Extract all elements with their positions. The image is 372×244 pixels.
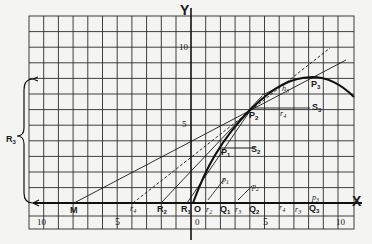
label-p3: P3 xyxy=(311,80,320,90)
label-p2-small: p2 xyxy=(252,183,259,192)
tick-y-10: 10 xyxy=(179,43,188,52)
label-p1: P1 xyxy=(221,148,230,158)
label-p3-small: p3 xyxy=(312,194,319,203)
tick-x-5: 5 xyxy=(263,217,268,227)
curve xyxy=(193,77,354,203)
label-q3: Q3 xyxy=(309,204,319,214)
tick-x-neg-10: 10 xyxy=(37,218,46,227)
x-axis-label: X xyxy=(352,194,361,208)
label-p1-small: p1 xyxy=(222,176,229,185)
label-s2: S2 xyxy=(251,145,260,155)
label-m: M xyxy=(70,206,78,215)
tick-x-neg-5: 5 xyxy=(115,217,120,227)
label-r4: r4 xyxy=(130,205,136,214)
label-h-mid: r4 xyxy=(280,110,286,119)
label-r3-small: r3 xyxy=(235,206,241,215)
brace-r3 xyxy=(17,77,38,203)
label-r1: R1 xyxy=(181,205,191,215)
tick-x-10: 10 xyxy=(336,218,345,227)
tick-y-5: 5 xyxy=(182,120,187,129)
label-s3: S3 xyxy=(312,103,321,113)
label-p2: P2 xyxy=(249,111,258,121)
label-q2: Q2 xyxy=(249,205,259,215)
label-q1: Q1 xyxy=(220,205,230,215)
label-r3b-small: r3 xyxy=(295,206,301,215)
label-r2: R2 xyxy=(157,205,167,215)
label-o: O xyxy=(194,205,201,214)
line-m-p2 xyxy=(74,60,346,203)
line-r1-p2 xyxy=(187,108,252,203)
y-axis-label: Y xyxy=(180,3,189,17)
label-r-mid: r4 xyxy=(279,204,285,213)
label-h-upper: h3 xyxy=(282,85,289,94)
tick-x-origin: 0 xyxy=(195,218,200,227)
label-r2-small: r2 xyxy=(206,206,212,215)
label-r3-brace: R3 xyxy=(6,135,16,145)
